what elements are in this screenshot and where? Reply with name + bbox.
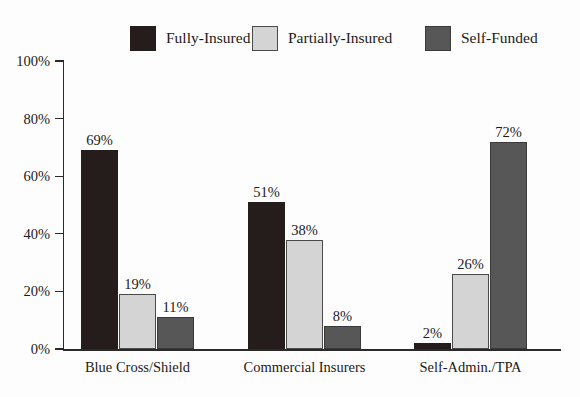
legend-swatch-icon-0 [130, 26, 156, 51]
bar [452, 274, 489, 349]
legend-label-1: Partially-Insured [288, 30, 392, 46]
legend-item-partially-insured: Partially-Insured [252, 24, 392, 52]
x-axis-line [63, 349, 561, 351]
y-tick-label: 20% [0, 284, 50, 299]
bar [414, 343, 451, 349]
bar [286, 240, 323, 349]
y-tick-label: 0% [0, 342, 50, 357]
legend-swatch-icon-2 [425, 26, 451, 51]
plot-area: 69%19%11%51%38%8%2%26%72% [63, 61, 560, 349]
chart-legend: Fully-Insured Partially-Insured Self-Fun… [0, 24, 580, 56]
x-category-label: Commercial Insurers [215, 360, 395, 375]
legend-label-2: Self-Funded [461, 30, 538, 46]
y-tick-label: 60% [0, 169, 50, 184]
bar-value-label: 8% [316, 309, 369, 324]
legend-swatch-icon-1 [252, 26, 278, 51]
bar-value-label: 11% [149, 300, 202, 315]
legend-item-fully-insured: Fully-Insured [130, 24, 250, 52]
bar-chart: Fully-Insured Partially-Insured Self-Fun… [0, 0, 580, 397]
x-category-label: Self-Admin./TPA [381, 360, 561, 375]
bar-value-label: 19% [111, 277, 164, 292]
bar-value-label: 51% [240, 185, 293, 200]
bar-value-label: 38% [278, 223, 331, 238]
legend-label-0: Fully-Insured [166, 30, 250, 46]
bar [324, 326, 361, 349]
bar [490, 142, 527, 349]
x-category-label: Blue Cross/Shield [48, 360, 228, 375]
bar [81, 150, 118, 349]
bar-value-label: 69% [73, 133, 126, 148]
bar [157, 317, 194, 349]
y-tick-label: 80% [0, 112, 50, 127]
y-tick-label: 40% [0, 227, 50, 242]
y-tick-label: 100% [0, 54, 50, 69]
bar-value-label: 72% [482, 125, 535, 140]
legend-item-self-funded: Self-Funded [425, 24, 538, 52]
